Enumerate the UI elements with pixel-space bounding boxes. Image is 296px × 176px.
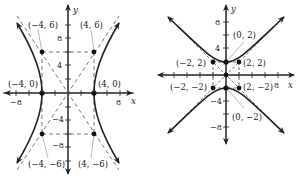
left-box-tl-dot bbox=[40, 50, 45, 55]
right-graph: 8 x 8 4 −4 −8 y bbox=[158, 4, 294, 144]
left-graph: −8 8 x 8 4 −4 −8 y bbox=[3, 5, 136, 174]
right-label-vertex-bottom: (0, −2) bbox=[232, 112, 262, 122]
left-y-axis: 8 4 −4 −8 y bbox=[52, 5, 78, 174]
left-x-axis-label: x bbox=[131, 96, 136, 106]
left-vertex-right-dot bbox=[91, 90, 96, 95]
left-vertex-left-dot bbox=[39, 90, 44, 95]
right-y-axis-label: y bbox=[230, 4, 236, 14]
right-x-tick-8: 8 bbox=[274, 81, 279, 90]
right-label-box-tl: (−2, 2) bbox=[176, 58, 206, 68]
left-x-tick-neg8: −8 bbox=[10, 98, 22, 107]
right-y-tick-neg8: −8 bbox=[210, 123, 222, 132]
right-box-bl-dot bbox=[211, 86, 216, 91]
left-y-tick-4: 4 bbox=[57, 61, 62, 70]
left-label-box-tl: (−4, 6) bbox=[28, 20, 58, 30]
left-y-tick-neg8: −8 bbox=[52, 141, 64, 150]
left-label-box-bl: (−4, −6) bbox=[28, 159, 65, 169]
left-y-tick-neg4: −4 bbox=[52, 115, 64, 124]
left-x-tick-8: 8 bbox=[116, 98, 121, 107]
left-box-bl-dot bbox=[40, 132, 45, 137]
right-label-box-tr: (2, 2) bbox=[243, 58, 266, 68]
left-leader-lines bbox=[38, 30, 94, 158]
right-y-tick-4: 4 bbox=[215, 44, 220, 53]
right-box-tl-dot bbox=[211, 60, 216, 65]
left-x-axis: −8 8 x bbox=[3, 90, 136, 107]
right-label-box-bl: (−2, −2) bbox=[170, 82, 207, 92]
left-box-tr-dot bbox=[92, 50, 97, 55]
right-box-tr-dot bbox=[237, 60, 242, 65]
left-y-axis-label: y bbox=[72, 5, 78, 15]
left-label-box-tr: (4, 6) bbox=[80, 20, 103, 30]
left-label-vertex-left: (−4, 0) bbox=[8, 79, 38, 89]
right-vertex-bottom-dot bbox=[223, 85, 228, 90]
right-y-tick-neg4: −4 bbox=[210, 97, 222, 106]
right-box-br-dot bbox=[237, 86, 242, 91]
left-label-vertex-right: (4, 0) bbox=[98, 79, 121, 89]
left-label-box-br: (4, −6) bbox=[78, 159, 108, 169]
right-y-axis: 8 4 −4 −8 y bbox=[210, 4, 236, 144]
right-vertex-top-dot bbox=[223, 59, 228, 64]
left-box-br-dot bbox=[92, 132, 97, 137]
left-y-tick-8: 8 bbox=[57, 34, 62, 43]
right-y-tick-8: 8 bbox=[215, 18, 220, 27]
right-label-box-br: (2, −2) bbox=[243, 82, 273, 92]
right-origin-dot bbox=[224, 73, 229, 78]
hyperbola-diagram: −8 8 x 8 4 −4 −8 y bbox=[0, 0, 296, 176]
right-x-axis-label: x bbox=[288, 80, 293, 90]
right-label-vertex-top: (0, 2) bbox=[233, 30, 256, 40]
